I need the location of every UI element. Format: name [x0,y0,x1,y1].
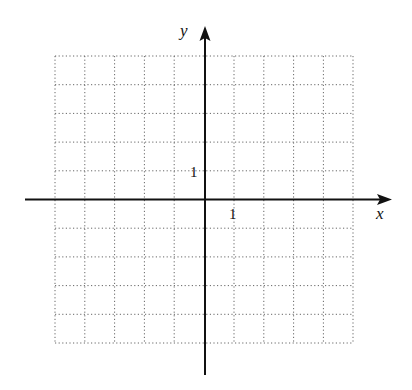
coordinate-plane: x y 1 1 [0,0,412,390]
x-tick-label: 1 [229,206,237,222]
x-axis [25,194,392,205]
x-axis-label: x [375,204,384,223]
y-axis-label: y [178,21,188,40]
y-tick-label: 1 [190,164,198,180]
